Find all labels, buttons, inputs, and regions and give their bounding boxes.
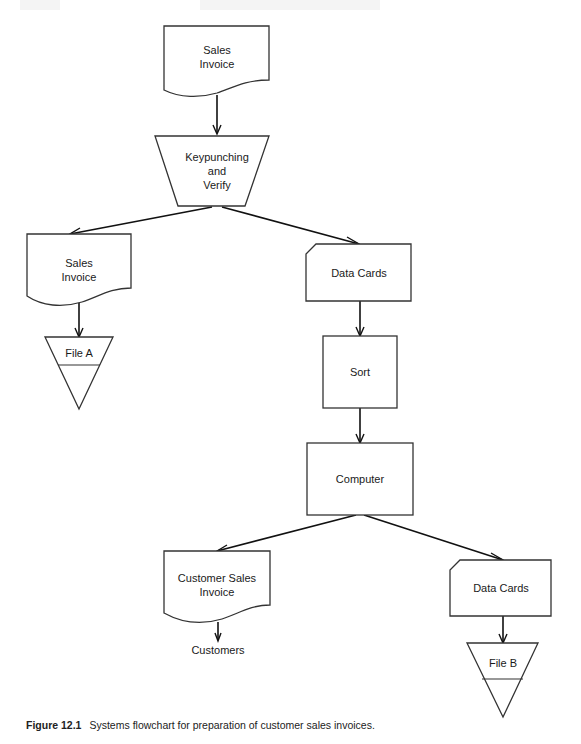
node-label-sort: Sort — [323, 365, 397, 379]
node-label-computer: Computer — [307, 472, 413, 486]
node-label-file-b: File B — [474, 656, 532, 670]
label-line: Invoice — [180, 57, 254, 71]
connectors — [70, 95, 507, 643]
label-line: Keypunching — [172, 150, 262, 164]
label-line: and — [172, 164, 262, 178]
node-label-file-a: File A — [50, 346, 108, 360]
label-line: Customer Sales — [164, 571, 270, 585]
offline-storage-shape-file-b — [467, 643, 538, 717]
label-line: Sales — [180, 43, 254, 57]
node-label-data-cards-top: Data Cards — [310, 266, 408, 280]
label-line: Verify — [172, 178, 262, 192]
figure-number: Figure 12.1 — [26, 719, 81, 731]
node-label-sales-invoice-top: Sales Invoice — [180, 43, 254, 71]
flowchart-canvas — [0, 0, 581, 744]
label-line: Sales — [42, 256, 116, 270]
label-line: Invoice — [164, 585, 270, 599]
figure-caption: Figure 12.1Systems flowchart for prepara… — [26, 719, 375, 731]
node-label-sales-invoice-left: Sales Invoice — [42, 256, 116, 284]
node-label-customer-sales-invoice: Customer Sales Invoice — [164, 571, 270, 599]
node-label-customers: Customers — [180, 643, 256, 657]
node-label-data-cards-bottom: Data Cards — [452, 581, 550, 595]
caption-text: Systems flowchart for preparation of cus… — [89, 719, 374, 731]
label-line: Invoice — [42, 270, 116, 284]
node-label-keypunching: Keypunching and Verify — [172, 150, 262, 192]
